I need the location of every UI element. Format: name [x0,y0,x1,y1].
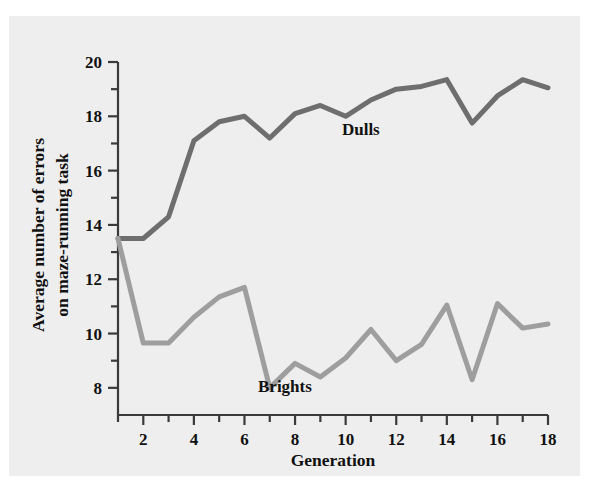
x-tick-label: 12 [388,430,405,449]
x-tick-label: 8 [291,430,300,449]
x-tick-label: 4 [190,430,199,449]
y-tick-label: 8 [94,379,103,398]
y-axis-title-line2: on maze-running task [52,153,72,317]
y-axis-tick-labels: 8101214161820 [85,53,103,398]
x-axis-title: Generation [291,450,376,470]
x-axis-ticks [118,415,548,425]
x-tick-label: 16 [489,430,506,449]
series-annotation-dulls: Dulls [342,120,380,139]
y-tick-label: 10 [85,325,102,344]
series-annotations: DullsBrights [258,120,380,396]
x-tick-label: 18 [540,430,557,449]
x-tick-label: 6 [240,430,249,449]
x-tick-label: 14 [438,430,456,449]
x-axis-tick-labels: 24681012141618 [139,430,556,449]
axes [118,62,548,415]
series-annotation-brights: Brights [258,377,312,396]
series-line-dulls [118,80,548,239]
y-tick-label: 12 [85,270,102,289]
data-series-group [118,80,548,388]
chart-page: 8101214161820 24681012141618 DullsBright… [0,0,589,492]
x-tick-label: 10 [337,430,354,449]
y-tick-label: 16 [85,162,102,181]
y-axis-title-line1: Average number of errors [28,138,48,332]
y-axis-ticks [108,62,118,388]
series-line-brights [118,239,548,388]
x-tick-label: 2 [139,430,148,449]
y-tick-label: 18 [85,107,102,126]
line-chart: 8101214161820 24681012141618 DullsBright… [0,0,589,492]
y-tick-label: 14 [85,216,103,235]
y-tick-label: 20 [85,53,102,72]
